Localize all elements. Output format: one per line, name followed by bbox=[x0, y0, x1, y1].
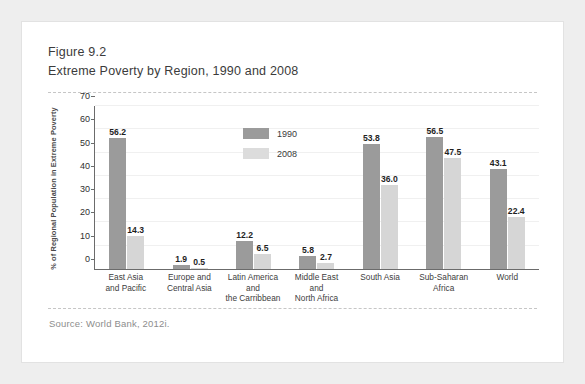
y-axis-tick-label: 70 bbox=[80, 91, 90, 101]
x-axis-label-line: and bbox=[286, 283, 348, 294]
plot-area: 010203040506070 56.214.31.90.512.26.55.8… bbox=[94, 106, 539, 270]
legend-swatch-2008 bbox=[243, 148, 269, 159]
divider-bottom bbox=[48, 308, 537, 309]
y-axis-tick-label: 0 bbox=[85, 254, 90, 264]
x-axis-label-line: World bbox=[476, 272, 538, 283]
bar-group: 1.90.5 bbox=[158, 106, 221, 269]
x-axis-label: South Asia bbox=[348, 272, 412, 304]
bar-2008: 47.5 bbox=[444, 158, 461, 269]
bar-2008: 22.4 bbox=[508, 217, 525, 269]
y-axis-tick-label: 60 bbox=[80, 114, 90, 124]
x-axis-label-line: Sub-Saharan bbox=[413, 272, 475, 283]
bar-value-label: 53.8 bbox=[363, 133, 380, 143]
bar-1990: 43.1 bbox=[490, 169, 507, 269]
y-axis-label: % of Regional Population in Extreme Pove… bbox=[46, 106, 60, 270]
bar-1990: 12.2 bbox=[236, 241, 253, 269]
bar-group: 43.122.4 bbox=[476, 106, 539, 269]
legend: 1990 2008 bbox=[243, 128, 297, 168]
y-axis-tick-label: 20 bbox=[80, 207, 90, 217]
bar-1990: 1.9 bbox=[173, 265, 190, 269]
y-axis-tick-label: 50 bbox=[80, 138, 90, 148]
legend-label-2008: 2008 bbox=[277, 149, 297, 159]
bar-value-label: 43.1 bbox=[490, 158, 507, 168]
bar-value-label: 56.2 bbox=[109, 127, 126, 137]
bar-1990: 56.5 bbox=[426, 137, 443, 269]
x-axis-label-line: Europe and bbox=[159, 272, 221, 283]
legend-item-2008: 2008 bbox=[243, 148, 297, 159]
bar-group: 53.836.0 bbox=[349, 106, 412, 269]
x-axis-label-line: the Carribbean bbox=[222, 293, 284, 304]
bar-group: 56.214.3 bbox=[95, 106, 158, 269]
bar-1990: 56.2 bbox=[109, 138, 126, 269]
bar-value-label: 22.4 bbox=[508, 206, 525, 216]
x-axis-labels: East Asiaand PacificEurope andCentral As… bbox=[94, 272, 539, 304]
x-axis-label-line: Latin America bbox=[222, 272, 284, 283]
bar-2008: 6.5 bbox=[254, 254, 271, 269]
x-axis-label-line: South Asia bbox=[349, 272, 411, 283]
y-axis-tick-label: 30 bbox=[80, 184, 90, 194]
x-axis-label-line: East Asia bbox=[95, 272, 157, 283]
x-axis-label-line: Middle East bbox=[286, 272, 348, 283]
x-axis-label: East Asiaand Pacific bbox=[94, 272, 158, 304]
bar-value-label: 14.3 bbox=[127, 225, 144, 235]
bar-value-label: 56.5 bbox=[426, 126, 443, 136]
legend-item-1990: 1990 bbox=[243, 128, 297, 139]
x-axis-label-line: and Pacific bbox=[95, 283, 157, 294]
bar-value-label: 5.8 bbox=[302, 245, 314, 255]
bar-2008: 14.3 bbox=[127, 236, 144, 269]
bar-1990: 53.8 bbox=[363, 144, 380, 269]
divider-top bbox=[48, 92, 537, 93]
figure-header: Figure 9.2 Extreme Poverty by Region, 19… bbox=[48, 44, 537, 80]
bar-chart: % of Regional Population in Extreme Pove… bbox=[48, 106, 539, 302]
bar-value-label: 36.0 bbox=[381, 174, 398, 184]
x-axis-label: Latin Americaandthe Carribbean bbox=[221, 272, 285, 304]
bar-value-label: 47.5 bbox=[444, 147, 461, 157]
legend-swatch-1990 bbox=[243, 128, 269, 139]
x-axis-label-line: North Africa bbox=[286, 293, 348, 304]
x-axis-label-line: Africa bbox=[413, 283, 475, 294]
bar-group: 56.547.5 bbox=[412, 106, 475, 269]
bar-2008: 0.5 bbox=[191, 268, 208, 269]
bar-value-label: 1.9 bbox=[175, 254, 187, 264]
x-axis-label: Europe andCentral Asia bbox=[158, 272, 222, 304]
x-axis-label-line: Central Asia bbox=[159, 283, 221, 294]
bar-value-label: 0.5 bbox=[193, 257, 205, 267]
bar-1990: 5.8 bbox=[299, 256, 316, 270]
figure-title: Extreme Poverty by Region, 1990 and 2008 bbox=[48, 62, 537, 80]
x-axis-label: Sub-SaharanAfrica bbox=[412, 272, 476, 304]
bar-groups: 56.214.31.90.512.26.55.82.753.836.056.54… bbox=[95, 106, 539, 269]
bar-value-label: 6.5 bbox=[257, 243, 269, 253]
bar-2008: 36.0 bbox=[381, 185, 398, 269]
y-axis-label-text: % of Regional Population in Extreme Pove… bbox=[49, 107, 58, 269]
x-axis-label: World bbox=[475, 272, 539, 304]
figure-number: Figure 9.2 bbox=[48, 44, 537, 61]
y-axis-tick-label: 10 bbox=[80, 231, 90, 241]
bar-value-label: 12.2 bbox=[236, 230, 253, 240]
x-axis-label: Middle EastandNorth Africa bbox=[285, 272, 349, 304]
bar-2008: 2.7 bbox=[317, 263, 334, 269]
figure-card: Figure 9.2 Extreme Poverty by Region, 19… bbox=[21, 21, 564, 363]
legend-label-1990: 1990 bbox=[277, 129, 297, 139]
y-axis-tick-label: 40 bbox=[80, 161, 90, 171]
source-note: Source: World Bank, 2012i. bbox=[49, 318, 170, 329]
x-axis-label-line: and bbox=[222, 283, 284, 294]
bar-value-label: 2.7 bbox=[320, 252, 332, 262]
